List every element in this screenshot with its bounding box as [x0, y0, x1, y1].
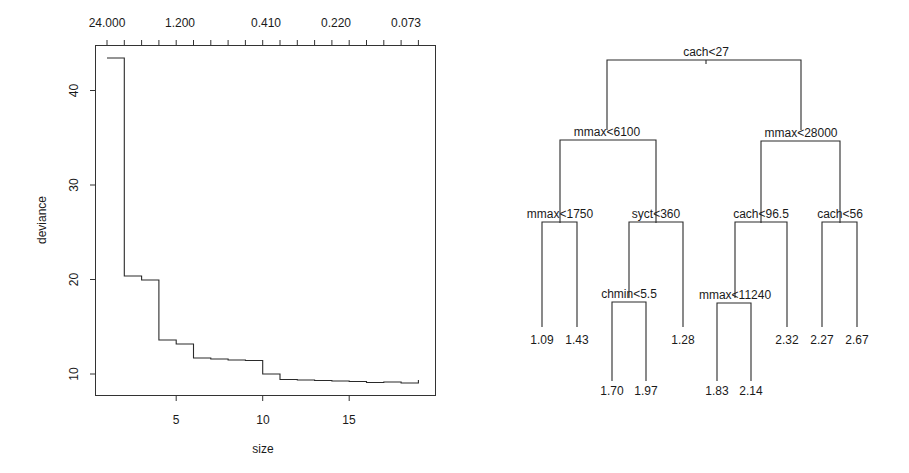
x-axis-label: size	[252, 442, 274, 456]
leaf-rrl: 2.27	[810, 333, 834, 347]
x-tick-15: 15	[342, 413, 356, 427]
leaf-lrll: 1.70	[600, 384, 624, 398]
top-label-3: 0.220	[321, 16, 351, 30]
branch-root	[607, 60, 801, 130]
split-rll: mmax<11240	[699, 288, 771, 302]
split-lr: syct<360	[632, 207, 681, 221]
deviance-step-line	[107, 58, 418, 383]
deviance-plot: 24.000 1.200 0.410 0.220 0.073 5 10 15 s…	[35, 16, 436, 456]
leaf-rrr: 2.67	[845, 333, 869, 347]
split-rl: cach<96.5	[733, 207, 789, 221]
top-axis-ticks	[107, 40, 418, 45]
branch-rr	[822, 222, 857, 327]
branch-lrl	[612, 302, 646, 381]
y-tick-30: 30	[67, 178, 81, 192]
top-label-4: 0.073	[391, 16, 421, 30]
figure-canvas: 24.000 1.200 0.410 0.220 0.073 5 10 15 s…	[0, 0, 909, 473]
top-label-1: 1.200	[165, 16, 195, 30]
branch-rll	[717, 303, 751, 381]
top-label-2: 0.410	[251, 16, 281, 30]
y-tick-40: 40	[67, 84, 81, 98]
branch-ll	[542, 222, 577, 327]
leaf-rlr: 2.32	[775, 333, 799, 347]
leaf-rlll: 1.83	[705, 384, 729, 398]
split-rr: cach<56	[817, 207, 863, 221]
split-l: mmax<6100	[574, 125, 641, 139]
top-label-0: 24.000	[89, 16, 126, 30]
x-tick-5: 5	[173, 413, 180, 427]
leaf-lrr: 1.28	[671, 333, 695, 347]
leaf-lrlr: 1.97	[634, 384, 658, 398]
split-root: cach<27	[683, 45, 729, 59]
y-axis-label: deviance	[35, 196, 49, 244]
split-r: mmax<28000	[764, 126, 837, 140]
leaf-llr: 1.43	[565, 333, 589, 347]
leaf-lll: 1.09	[530, 333, 554, 347]
branch-lr	[629, 222, 683, 327]
split-lrl: chmin<5.5	[601, 287, 657, 301]
y-tick-20: 20	[67, 273, 81, 287]
regression-tree: cach<27 mmax<6100 mmax<28000 mmax<1750 s…	[527, 45, 869, 398]
y-tick-10: 10	[67, 367, 81, 381]
leaf-rllr: 2.14	[739, 384, 763, 398]
x-tick-10: 10	[256, 413, 270, 427]
plot-frame	[96, 46, 436, 396]
branch-rl	[735, 222, 787, 327]
split-ll: mmax<1750	[527, 207, 594, 221]
